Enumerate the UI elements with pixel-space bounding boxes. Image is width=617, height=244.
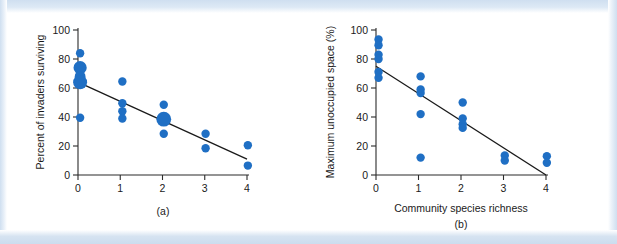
y-tick-label: 60 (356, 82, 368, 94)
data-point (118, 114, 126, 122)
data-point (73, 75, 87, 89)
y-tick-label: 100 (350, 24, 368, 36)
data-point (201, 144, 209, 152)
data-point (459, 124, 467, 132)
x-axis-title: Community species richness (394, 202, 528, 214)
panel-caption: (b) (455, 218, 468, 230)
y-tick-label: 0 (64, 169, 70, 181)
x-tick-label: 0 (373, 182, 379, 194)
scatter-plot-b: 02040608010001234Maximum unoccupied spac… (308, 0, 617, 244)
data-point (156, 112, 171, 127)
y-tick-label: 40 (58, 111, 70, 123)
x-tick-label: 4 (244, 182, 250, 194)
x-tick-label: 0 (75, 182, 81, 194)
data-point (416, 72, 424, 80)
data-point (501, 156, 509, 164)
y-tick-label: 20 (58, 140, 70, 152)
data-point (160, 100, 168, 108)
data-point (76, 114, 84, 122)
x-tick-label: 1 (117, 182, 123, 194)
data-point (543, 158, 551, 166)
panel-a: 02040608010001234Percent of invaders sur… (0, 0, 308, 244)
y-tick-label: 40 (356, 111, 368, 123)
data-point (201, 129, 209, 137)
data-point (118, 77, 126, 85)
data-point (374, 74, 382, 82)
panel-caption: (a) (157, 205, 170, 217)
x-tick-label: 3 (202, 182, 208, 194)
y-tick-label: 60 (58, 82, 70, 94)
y-tick-label: 0 (362, 169, 368, 181)
scatter-plot-a: 02040608010001234Percent of invaders sur… (0, 0, 308, 244)
data-point (118, 99, 126, 107)
x-tick-label: 2 (458, 182, 464, 194)
y-tick-label: 20 (356, 140, 368, 152)
data-point (416, 110, 424, 118)
data-point (76, 49, 84, 57)
x-tick-label: 1 (416, 182, 422, 194)
data-point (160, 129, 168, 137)
data-point (244, 161, 252, 169)
y-tick-label: 100 (52, 24, 70, 36)
y-tick-label: 80 (58, 53, 70, 65)
data-point (416, 89, 424, 97)
x-tick-label: 2 (160, 182, 166, 194)
y-axis-title: Percent of invaders surviving (34, 34, 46, 169)
y-tick-label: 80 (356, 53, 368, 65)
data-point (244, 141, 252, 149)
x-tick-label: 4 (543, 182, 549, 194)
x-tick-label: 3 (501, 182, 507, 194)
data-point (416, 153, 424, 161)
data-point (459, 98, 467, 106)
panel-b: 02040608010001234Maximum unoccupied spac… (308, 0, 617, 244)
data-point (374, 41, 382, 49)
data-point (118, 107, 126, 115)
data-point (374, 55, 382, 63)
figure-root: 02040608010001234Percent of invaders sur… (0, 0, 617, 244)
y-axis-title: Maximum unoccupied space (%) (324, 26, 336, 178)
